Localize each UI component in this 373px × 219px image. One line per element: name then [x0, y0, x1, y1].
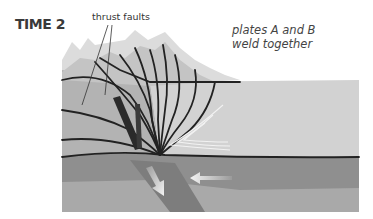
plate-b-crust [150, 80, 359, 157]
collision-diagram [0, 0, 373, 219]
